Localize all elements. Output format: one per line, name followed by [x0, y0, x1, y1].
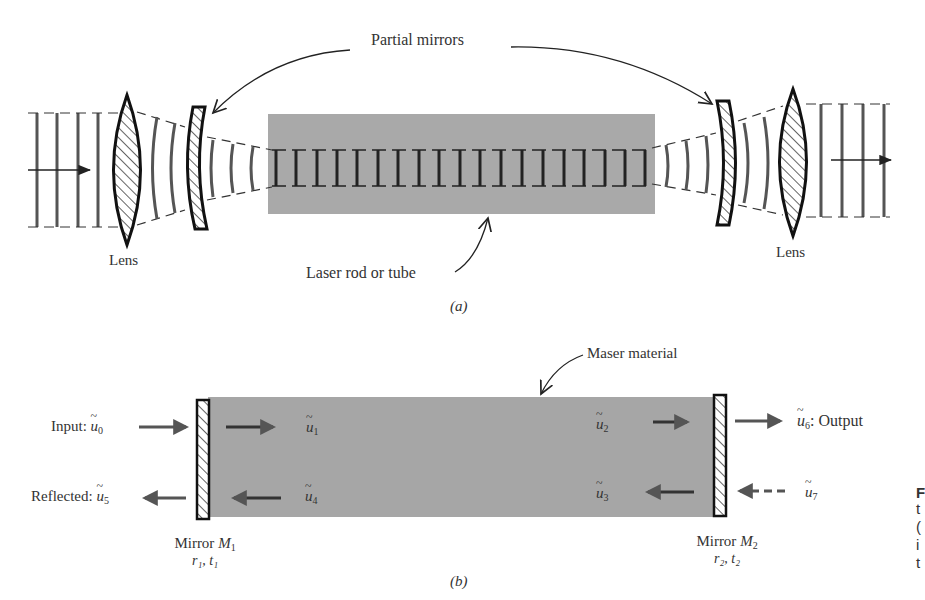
partial-mirrors-leader-right	[511, 47, 712, 104]
mirror-m1	[197, 400, 209, 519]
label-mirror-m1: Mirror M1 r₁, t₁	[160, 535, 250, 569]
edge-caption-fragment-1: F	[916, 484, 925, 501]
m2-sub: 2	[753, 540, 758, 551]
symbol-u6: u6	[797, 412, 810, 431]
u3-base: u	[596, 485, 604, 501]
symbol-u3: u3	[596, 485, 609, 503]
u6-sub: 6	[805, 420, 810, 431]
m1-name: Mirror	[174, 535, 214, 551]
right-lens	[780, 89, 807, 236]
label-mirror-m2: Mirror M2 r₂, t₂	[677, 533, 777, 567]
m1-params: r₁, t₁	[160, 553, 250, 569]
symbol-u5: u5	[96, 488, 109, 506]
caption-b: (b)	[450, 573, 468, 590]
laser-rod-leader	[455, 218, 488, 272]
diverging-wavefronts-right-2	[744, 117, 768, 209]
u6-base: u	[797, 412, 805, 429]
left-lens	[114, 95, 141, 245]
input-text: Input:	[51, 418, 87, 434]
maser-material	[208, 397, 715, 517]
u0-sub: 0	[98, 425, 103, 436]
edge-caption-fragment-2: t	[916, 500, 920, 517]
label-maser-material: Maser material	[587, 345, 677, 362]
edge-caption-fragment-4: i	[916, 536, 919, 553]
u1-sub: 1	[314, 426, 319, 437]
label-output: u6: Output	[797, 412, 863, 431]
m2-name: Mirror	[696, 533, 736, 549]
label-laser-rod: Laser rod or tube	[306, 264, 416, 282]
beam-envelope-mirror-rod-left	[207, 137, 272, 200]
label-reflected: Reflected: u5	[31, 488, 109, 506]
partial-mirrors-leader-left	[213, 50, 350, 113]
u2-base: u	[596, 416, 604, 432]
m2-params: r₂, t₂	[677, 551, 777, 567]
symbol-u4: u4	[305, 488, 318, 506]
output-text: : Output	[810, 412, 863, 429]
label-partial-mirrors: Partial mirrors	[371, 31, 464, 49]
symbol-u7: u7	[805, 484, 818, 502]
diverging-wavefronts-right	[666, 136, 708, 193]
u5-base: u	[96, 488, 104, 504]
converging-wavefronts-left	[153, 117, 176, 219]
edge-caption-fragment-3: (	[916, 518, 921, 535]
u7-base: u	[805, 484, 813, 500]
converging-wavefronts-left-2	[211, 140, 253, 197]
m1-sym: M	[218, 535, 231, 551]
left-partial-mirror	[187, 107, 207, 229]
u5-sub: 5	[104, 495, 109, 506]
label-lens-left: Lens	[109, 252, 138, 269]
m1-sub: 1	[231, 542, 236, 553]
mirror-m2	[714, 395, 726, 516]
right-partial-mirror	[717, 101, 736, 225]
edge-caption-fragment-5: t	[916, 554, 920, 571]
u3-sub: 3	[604, 492, 609, 503]
u4-base: u	[305, 488, 313, 504]
symbol-u1: u1	[306, 419, 319, 437]
reflected-text: Reflected:	[31, 488, 93, 504]
symbol-u2: u2	[596, 416, 609, 434]
m2-sym: M	[740, 533, 753, 549]
u0-base: u	[91, 418, 99, 434]
panel-b	[139, 355, 785, 519]
u1-base: u	[306, 419, 314, 435]
caption-a: (a)	[450, 298, 468, 315]
u4-sub: 4	[313, 495, 318, 506]
label-input: Input: u0	[51, 418, 103, 436]
label-lens-right: Lens	[776, 244, 805, 261]
panel-a	[28, 47, 891, 272]
maser-material-leader	[541, 355, 583, 394]
u2-sub: 2	[604, 423, 609, 434]
u7-sub: 7	[813, 491, 818, 502]
beam-envelope-lens-mirror-left	[137, 112, 185, 225]
symbol-u0: u0	[91, 418, 104, 436]
